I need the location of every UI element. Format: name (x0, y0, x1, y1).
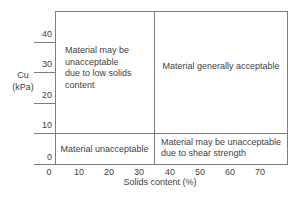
region-label-line: Material unacceptable (56, 144, 153, 156)
y-tick-label-0: 0 (31, 152, 52, 162)
quadrant-acceptability-chart: 40 30 20 10 0 0 10 20 30 40 50 60 70 Cu … (0, 0, 301, 198)
x-tick-label-60: 60 (219, 167, 241, 177)
x-tick-label-30: 30 (128, 167, 150, 177)
region-label-low-solids: Material may be unacceptable due to low … (65, 45, 155, 91)
y-tick-mark-20 (34, 103, 55, 104)
region-label-generally-acceptable: Material generally acceptable (155, 61, 287, 73)
x-tick-label-0: 0 (38, 167, 60, 177)
x-tick-label-20: 20 (98, 167, 120, 177)
region-label-line: content (65, 80, 155, 92)
x-tick-label-40: 40 (159, 167, 181, 177)
region-label-unacceptable: Material unacceptable (56, 144, 153, 156)
y-tick-mark-0 (34, 164, 55, 165)
y-axis-title: Cu (kPa) (6, 69, 40, 93)
region-label-line: due to low solids (65, 68, 155, 80)
region-label-line: Material may be (65, 45, 155, 57)
region-label-line: due to shear strength (161, 148, 287, 159)
x-tick-label-10: 10 (68, 167, 90, 177)
region-label-shear-strength: Material may be unacceptable due to shea… (161, 137, 287, 158)
region-label-line: Material may be unacceptable (161, 137, 287, 148)
x-tick-label-50: 50 (189, 167, 211, 177)
shear-strength-boundary-line (55, 133, 288, 134)
x-axis-title: Solids content (%) (98, 177, 222, 188)
region-label-line: unacceptable (65, 57, 155, 69)
y-axis-title-line1: Cu (6, 69, 40, 81)
y-tick-label-40: 40 (31, 29, 52, 39)
y-axis-title-line2: (kPa) (6, 81, 40, 93)
y-tick-label-10: 10 (31, 120, 52, 130)
y-tick-label-30: 30 (31, 59, 52, 69)
y-tick-mark-40 (34, 42, 55, 43)
y-tick-mark-10 (34, 133, 55, 134)
x-tick-label-70: 70 (249, 167, 271, 177)
region-label-line: Material generally acceptable (155, 61, 287, 73)
